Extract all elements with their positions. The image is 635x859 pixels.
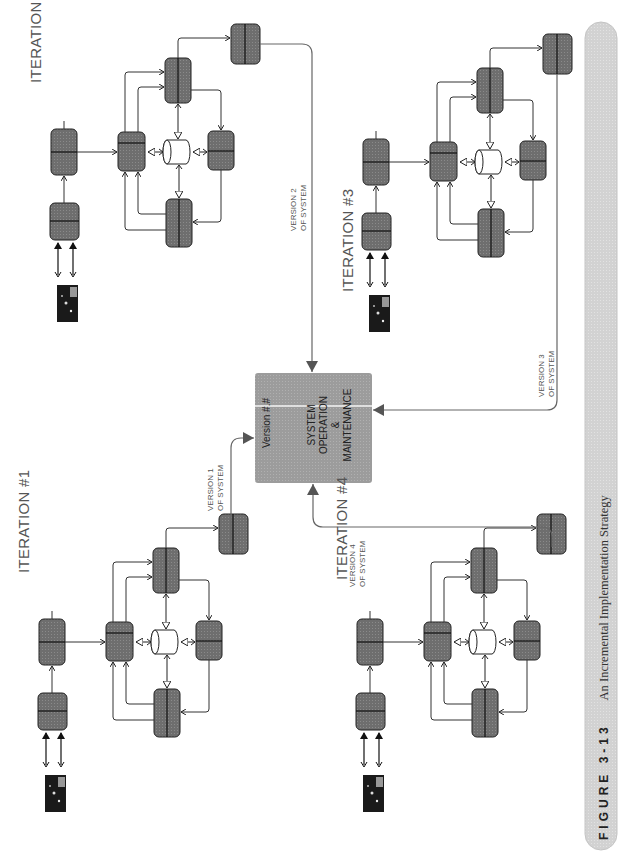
version-label: VERSION 2 OF SYSTEM [289, 185, 309, 231]
center-line: OPERATION [318, 372, 330, 478]
version-label: VERSION 4 OF SYSTEM [348, 541, 368, 587]
version-label-line: VERSION 4 [348, 541, 358, 587]
version-label-line: OF SYSTEM [358, 541, 368, 587]
incremental-implementation-diagram: ITERATION #2 ITERATION #3 ITERATION #1 I… [0, 0, 635, 859]
iteration-title: ITERATION #2 [27, 0, 44, 83]
figure-title: An Incremental Implementation Strategy [597, 495, 611, 700]
version-label-line: VERSION 2 [289, 185, 299, 231]
version-label-line: VERSION 3 [537, 351, 547, 397]
iteration-2-cluster [50, 24, 260, 322]
version-label-line: OF SYSTEM [547, 351, 557, 397]
iteration-title: ITERATION #3 [339, 189, 356, 292]
iteration-4-cluster [356, 514, 566, 812]
center-line: SYSTEM [306, 372, 318, 478]
center-line: & [330, 372, 342, 478]
figure-caption: FIGURE 3-13 An Incremental Implementatio… [594, 495, 612, 840]
version-label: VERSION 3 OF SYSTEM [537, 351, 557, 397]
iteration-3-cluster [362, 34, 572, 332]
version-number-label: Version #.# [261, 388, 273, 458]
version-label: VERSION 1 OF SYSTEM [206, 465, 226, 511]
figure-number: FIGURE 3-13 [597, 723, 611, 840]
system-operation-label: SYSTEM OPERATION & MAINTENANCE [306, 372, 354, 478]
iteration-title: ITERATION #1 [15, 470, 32, 573]
version-label-line: OF SYSTEM [216, 465, 226, 511]
center-line: MAINTENANCE [342, 372, 354, 478]
version-label-line: OF SYSTEM [299, 185, 309, 231]
iteration-1-cluster [38, 514, 248, 812]
version-label-line: VERSION 1 [206, 465, 216, 511]
